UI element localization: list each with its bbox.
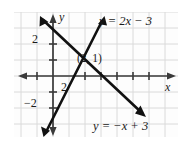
plot-area: y x 2 −2 2 (2, 1) y = 2x − 3 y = −x + 3 [14,12,178,137]
y-axis-label: y [59,10,64,25]
y-tick-label-2: 2 [32,32,38,47]
line-y-equals-minus-x-plus-3 [40,16,147,117]
x-axis-label: x [165,80,170,95]
x-axis-right-arrow [167,72,176,79]
intersection-point-label: (2, 1) [77,52,102,64]
line2-equation-label: y = −x + 3 [93,119,148,134]
line1-equation-label: y = 2x − 3 [99,14,152,29]
graph-figure: y x 2 −2 2 (2, 1) y = 2x − 3 y = −x + 3 [0,0,182,150]
y-axis-top-arrow [49,14,56,23]
x-axis-left-arrow [18,72,27,79]
y-tick-label-negative-2: −2 [24,96,37,111]
x-tick-label-2: 2 [61,80,67,95]
y-axis-bottom-arrow [49,127,56,136]
x-axis [18,72,176,79]
